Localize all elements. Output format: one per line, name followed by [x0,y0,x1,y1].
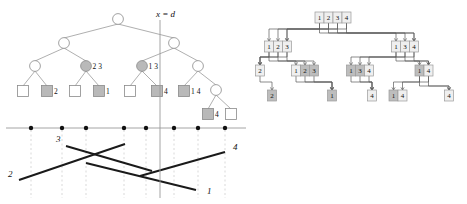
fractional-cascading-panel: 1234123134212313414214144 [250,0,467,204]
tree-edge [184,71,198,86]
tree-internal-node [59,38,70,49]
cascade-pointer [329,23,406,41]
segment-label: 3 [55,134,61,144]
cascade-cell-value: 1 [392,92,396,100]
split-line-label: x = d [155,9,176,19]
axis-point [223,126,227,130]
tree-edge [130,71,142,86]
cascade-cell-value: 1 [418,67,422,75]
cascade-cell-value: 4 [367,67,371,75]
segment-label: 4 [233,142,238,152]
cascade-cell-value: 1 [330,92,334,100]
cascade-cell-value: 3 [358,67,362,75]
tree-leaf-node [94,86,105,97]
tree-edge [208,95,216,109]
cascade-pointer [305,76,332,90]
tree-edge [142,48,174,61]
segment-label: 1 [207,186,212,196]
tree-edge [64,48,86,61]
cascade-cell-value: 3 [312,67,316,75]
cascade-pointer [369,52,414,65]
tree-edge [64,24,118,38]
cascade-pointer [403,76,429,90]
segment [19,144,125,180]
cascade-pointer [429,76,450,90]
axis-point [122,126,126,130]
node-label: 1 3 [149,62,159,71]
tree-leaf-node [152,86,163,97]
cascade-cell-value: 1 [394,43,398,51]
axis-point [144,126,148,130]
tree-internal-node [30,61,41,72]
leaf-label: 2 [54,87,58,96]
cascade-cell-value: 1 [318,14,322,22]
cascade-pointer [260,52,287,65]
tree-leaf-node [226,109,237,120]
tree-internal-node [137,61,148,72]
cascade-pointers [258,23,450,90]
cascade-cell-value: 4 [427,67,431,75]
cascade-pointer [420,76,450,90]
tree-leaf-node [203,109,214,120]
number-line [6,126,246,130]
tree-leaf-node [70,86,81,97]
cascade-cell-value: 2 [258,67,262,75]
cascade-cell-value: 1 [349,67,353,75]
cascade-cell-value: 3 [403,43,407,51]
cascade-pointer [338,23,415,41]
tree-edge [35,48,64,61]
cascade-cell-value: 2 [270,92,274,100]
tree-nodes: 2 31 32141 44 [18,14,237,120]
cascade-cell-value: 4 [401,92,405,100]
tree-leaf-node [42,86,53,97]
tree-leaf-node [18,86,29,97]
leaf-label: 1 [106,87,110,96]
tree-edge [198,71,216,85]
node-label: 2 3 [93,62,103,71]
tree-edge [142,71,157,86]
cascade-cell-value: 3 [285,43,289,51]
tree-edge [86,71,99,86]
tree-leaf-node [125,86,136,97]
cascade-cell-value: 2 [276,43,280,51]
axis-point [84,126,88,130]
tree-internal-node [81,61,92,72]
segment-label: 2 [8,169,13,179]
leaf-label: 4 [164,87,168,96]
cascade-cell-value: 2 [327,14,331,22]
cascade-pointer [287,52,314,65]
cascade-pointer [414,52,429,65]
leaf-label: 1 4 [191,87,201,96]
cascade-nodes: 1234123134212313414214144 [256,12,454,101]
cascade-cell-value: 4 [370,92,374,100]
cascade-pointer [260,76,272,90]
figure-root: 2 31 32141 44 3241 x = d 123412313421231… [0,0,467,204]
tree-edge [75,71,86,86]
cascade-pointer [320,23,397,41]
cascade-pointer [360,52,405,65]
leaf-label: 4 [215,110,219,119]
axis-point [60,126,64,130]
segment [140,152,225,176]
axis-point [172,126,176,130]
cascade-pointer [396,52,420,65]
cascade-cell-value: 4 [412,43,416,51]
tree-internal-node [169,38,180,49]
tree-edge [216,95,231,109]
cascade-cell-value: 1 [294,67,298,75]
cascade-pointer [287,23,338,41]
cascade-cell-value: 3 [336,14,340,22]
tree-internal-node [211,85,222,96]
tree-edge [35,71,47,86]
tree-edge [23,71,35,86]
cascade-pointer [347,23,415,41]
cascade-pointer [351,52,396,65]
cascade-cell-value: 2 [303,67,307,75]
tree-leaf-node [179,86,190,97]
range-tree-panel: 2 31 32141 44 3241 x = d [0,0,250,204]
tree-internal-node [113,14,124,25]
cascade-pointer [360,76,372,90]
cascade-pointer [269,52,296,65]
cascade-pointer [314,76,332,90]
tree-edge [118,24,174,38]
